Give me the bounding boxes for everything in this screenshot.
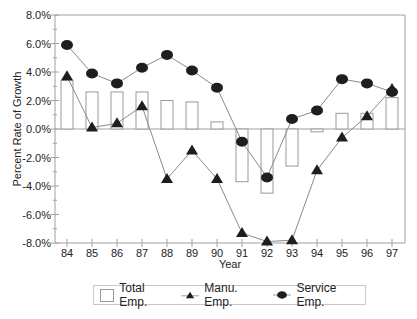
- legend-item-manu: Manu. Emp.: [181, 281, 257, 309]
- legend-item-service: Service Emp.: [273, 281, 355, 309]
- y-tick-label: -4.0%: [22, 180, 51, 192]
- y-tick-label: -6.0%: [22, 209, 51, 221]
- bar-total-emp: [186, 102, 198, 129]
- triangle-marker-icon: [311, 164, 323, 174]
- y-tick-label: -2.0%: [22, 152, 51, 164]
- circle-marker-icon: [311, 105, 323, 115]
- circle-marker-icon: [336, 74, 348, 84]
- circle-marker-icon: [111, 78, 123, 88]
- bar-total-emp: [286, 129, 298, 166]
- y-tick-label: -8.0%: [22, 237, 51, 249]
- circle-marker-icon: [186, 66, 198, 76]
- bar-total-emp: [161, 101, 173, 130]
- triangle-marker-icon: [236, 227, 248, 237]
- bar-total-emp: [336, 113, 348, 129]
- axes: [51, 15, 405, 247]
- triangle-marker-icon: [336, 132, 348, 142]
- x-tick-label: 96: [361, 247, 373, 259]
- x-tick-label: 89: [186, 247, 198, 259]
- x-tick-label: 95: [336, 247, 348, 259]
- circle-marker-icon: [136, 63, 148, 73]
- series-markers: [61, 40, 398, 246]
- triangle-marker-icon: [61, 70, 73, 80]
- legend-label-service: Service Emp.: [296, 281, 355, 309]
- chart-plot: 8.0%6.0%4.0%2.0%0.0%-2.0%-4.0%-6.0%-8.0%…: [0, 0, 417, 285]
- circle-marker-icon: [261, 172, 273, 182]
- x-tick-label: 97: [386, 247, 398, 259]
- y-tick-label: 8.0%: [26, 9, 51, 21]
- x-axis-title: Year: [219, 258, 242, 270]
- bar-total-emp: [61, 81, 73, 129]
- circle-marker-icon: [286, 114, 298, 124]
- x-tick-label: 84: [61, 247, 73, 259]
- triangle-marker-icon: [286, 234, 298, 244]
- legend-item-total: Total Emp.: [100, 281, 165, 309]
- circle-marker-icon: [161, 50, 173, 60]
- bars-total-emp: [61, 81, 398, 194]
- y-tick-label: 2.0%: [26, 95, 51, 107]
- circle-marker-icon: [211, 83, 223, 93]
- x-tick-label: 94: [311, 247, 323, 259]
- x-tick-label: 86: [111, 247, 123, 259]
- bar-total-emp: [136, 92, 148, 129]
- triangle-marker-icon: [186, 144, 198, 154]
- y-axis-title: Percent Rate of Growth: [11, 72, 23, 187]
- y-tick-label: 6.0%: [26, 38, 51, 50]
- circle-marker-icon: [273, 289, 291, 301]
- circle-marker-icon: [386, 87, 398, 97]
- legend: Total Emp. Manu. Emp. Service Emp.: [93, 285, 366, 305]
- x-tick-label: 88: [161, 247, 173, 259]
- circle-marker-icon: [86, 68, 98, 78]
- bar-total-emp: [311, 129, 323, 132]
- bar-total-emp: [261, 129, 273, 193]
- triangle-marker-icon: [181, 289, 199, 301]
- bar-swatch-icon: [100, 289, 114, 302]
- legend-label-manu: Manu. Emp.: [204, 281, 257, 309]
- y-tick-label: 0.0%: [26, 123, 51, 135]
- bar-total-emp: [386, 98, 398, 129]
- legend-label-total: Total Emp.: [119, 281, 165, 309]
- x-tick-label: 87: [136, 247, 148, 259]
- circle-marker-icon: [361, 78, 373, 88]
- circle-marker-icon: [236, 137, 248, 147]
- bar-total-emp: [211, 122, 223, 129]
- x-tick-label: 93: [286, 247, 298, 259]
- x-tick-label: 85: [86, 247, 98, 259]
- x-tick-label: 92: [261, 247, 273, 259]
- y-tick-label: 4.0%: [26, 66, 51, 78]
- circle-marker-icon: [61, 40, 73, 50]
